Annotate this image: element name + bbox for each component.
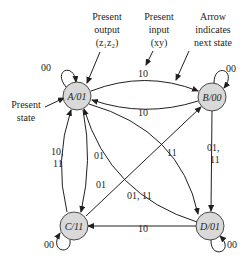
pointer-present-state: [45, 98, 64, 107]
label-c-self: 00: [44, 239, 54, 250]
label-a-to-d: 11: [167, 147, 177, 158]
label-a-self: 00: [41, 62, 51, 73]
label-c-to-a-line2: 11: [53, 158, 63, 169]
edge-d-to-a: [84, 109, 197, 222]
edge-a-to-b: [91, 81, 198, 92]
annotation-present-input: Present input (xy): [144, 11, 174, 49]
svg-text:indicates: indicates: [195, 24, 231, 35]
svg-text:Arrow: Arrow: [200, 11, 227, 22]
node-a: A/01: [63, 82, 91, 110]
edge-a-to-c: [81, 110, 88, 212]
label-b-to-d-line2: 11: [210, 154, 220, 165]
edge-c-to-a: [61, 110, 71, 212]
label-a-to-c: 01: [94, 150, 104, 161]
svg-text:Present: Present: [11, 99, 41, 110]
label-a-to-b: 10: [138, 68, 148, 79]
node-a-label: A/01: [67, 91, 87, 102]
label-c-to-b: 01: [96, 179, 106, 190]
annotation-present-output: Present output (z₁z₂): [92, 11, 122, 49]
svg-text:next state: next state: [194, 37, 233, 48]
svg-text:state: state: [17, 112, 36, 123]
svg-text:Present: Present: [144, 11, 174, 22]
pointer-present-input: [146, 51, 153, 65]
node-b-label: B/00: [203, 92, 222, 103]
node-c-label: C/11: [65, 221, 84, 232]
label-d-to-a: 01, 11: [127, 190, 152, 201]
pointer-arrow-note: [176, 51, 189, 80]
svg-text:input: input: [149, 24, 170, 35]
annotation-arrow-note: Arrow indicates next state: [194, 11, 233, 48]
label-d-to-c: 10: [138, 223, 148, 234]
svg-text:output: output: [94, 24, 120, 35]
node-b: B/00: [198, 83, 226, 111]
label-c-to-a-line1: 10,: [51, 146, 64, 157]
svg-text:(xy): (xy): [151, 37, 168, 49]
label-b-to-a: 10: [138, 107, 148, 118]
label-d-self: 00: [227, 239, 237, 250]
pointer-present-output: [87, 52, 100, 83]
node-c: C/11: [60, 212, 88, 240]
label-b-to-d-line1: 01,: [207, 142, 220, 153]
label-b-self: 00: [226, 63, 236, 74]
node-d-label: D/01: [199, 221, 220, 232]
node-d: D/01: [196, 212, 224, 240]
svg-text:Present: Present: [92, 11, 122, 22]
svg-text:(z₁z₂): (z₁z₂): [96, 37, 119, 49]
annotation-present-state: Present state: [11, 99, 41, 123]
state-diagram: A/01 B/00 C/11 D/01 00 10 10 00 01, 11 1…: [0, 0, 249, 259]
